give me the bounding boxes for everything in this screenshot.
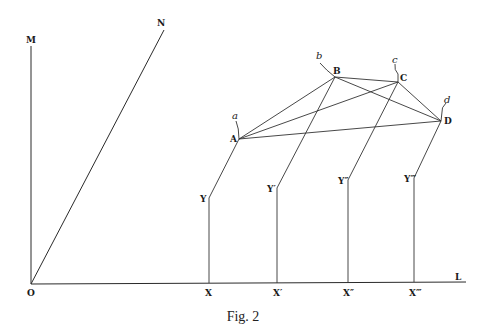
- label-x2: X″: [343, 288, 354, 298]
- segment-ya: [209, 139, 239, 198]
- label-y0: Y: [199, 194, 207, 204]
- segment-y2c: [348, 82, 398, 180]
- edge-cd: [398, 82, 441, 121]
- label-c-small: c: [392, 54, 398, 65]
- label-y2: Y″: [337, 176, 348, 186]
- label-o: O: [27, 288, 35, 298]
- label-y1: Y′: [266, 184, 276, 194]
- label-a-small: a: [232, 110, 238, 121]
- label-x1: X′: [273, 288, 283, 298]
- label-l: L: [455, 272, 462, 282]
- label-x0: X: [205, 288, 212, 298]
- segment-y1b: [277, 77, 335, 188]
- label-d-point: D: [444, 116, 452, 126]
- label-m: M: [26, 35, 36, 45]
- label-n: N: [157, 18, 165, 28]
- edge-ac: [239, 82, 398, 139]
- tail-c: [395, 64, 398, 82]
- label-b-point: B: [333, 66, 341, 76]
- label-x3: X‴: [409, 288, 422, 298]
- geometric-figure: M N O L A B C D a b c d X X′ X″ X‴ Y Y′ …: [0, 0, 486, 330]
- edge-ad: [239, 121, 441, 139]
- axis-on: [31, 30, 164, 284]
- label-d-small: d: [444, 94, 450, 105]
- label-b-small: b: [316, 50, 322, 61]
- edge-ab: [239, 77, 335, 139]
- axis-ol: [31, 282, 466, 284]
- segment-y3d: [414, 121, 441, 178]
- label-c-point: C: [400, 73, 407, 83]
- label-a-point: A: [229, 134, 238, 144]
- label-y3: Y‴: [403, 174, 416, 184]
- figure-caption: Fig. 2: [0, 309, 486, 325]
